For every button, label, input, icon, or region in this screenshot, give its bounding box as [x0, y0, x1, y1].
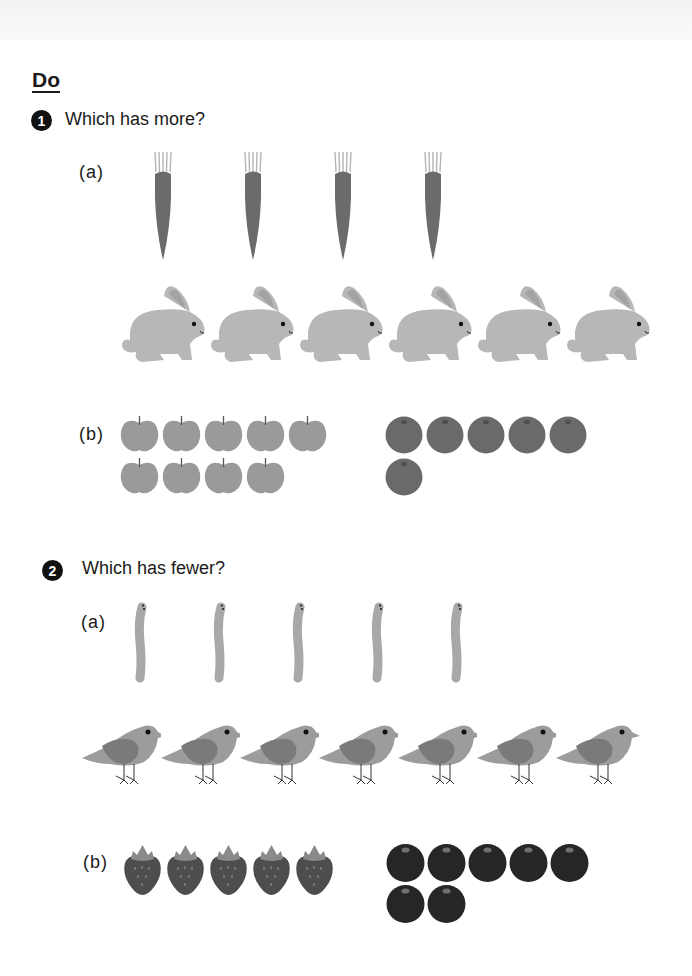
apple-icon: [288, 414, 327, 454]
question-prompt: Which has more?: [65, 109, 205, 130]
carrot-icon: [140, 150, 186, 262]
rabbit-icon: [120, 282, 209, 366]
apple-icon: [120, 414, 159, 454]
worm-icon: [211, 602, 231, 684]
question-prompt: Which has fewer?: [82, 558, 225, 579]
bird-group: [82, 718, 635, 790]
part-label: (a): [81, 612, 106, 633]
blueberry-icon: [550, 843, 589, 882]
blueberry-icon: [427, 884, 466, 923]
strawberry-icon: [123, 843, 162, 897]
orange-icon: [508, 416, 546, 454]
rabbit-icon: [565, 282, 654, 366]
part-label: (b): [79, 424, 104, 445]
page-top-band: [0, 0, 692, 40]
orange-icon: [426, 416, 464, 454]
section-title: Do: [32, 68, 60, 92]
bird-icon: [319, 718, 398, 790]
apple-icon: [246, 456, 285, 496]
strawberry-group: [123, 843, 334, 897]
orange-icon: [385, 416, 423, 454]
rabbit-icon: [209, 282, 298, 366]
orange-icon: [385, 458, 423, 496]
blueberry-icon: [468, 843, 507, 882]
rabbit-icon: [387, 282, 476, 366]
apple-group: [120, 414, 340, 496]
blueberry-icon: [427, 843, 466, 882]
apple-icon: [162, 414, 201, 454]
carrot-icon: [230, 150, 276, 262]
apple-icon: [204, 456, 243, 496]
part-label: (a): [79, 162, 104, 183]
orange-group: [385, 416, 605, 496]
orange-icon: [467, 416, 505, 454]
carrot-icon: [320, 150, 366, 262]
part-label: (b): [83, 852, 108, 873]
apple-icon: [204, 414, 243, 454]
blueberry-icon: [386, 843, 425, 882]
apple-icon: [162, 456, 201, 496]
blueberry-group: [386, 843, 606, 923]
question-number-badge: 2: [42, 560, 63, 581]
worm-icon: [132, 602, 152, 684]
apple-icon: [246, 414, 285, 454]
bird-icon: [398, 718, 477, 790]
bird-icon: [556, 718, 635, 790]
rabbit-icon: [476, 282, 565, 366]
strawberry-icon: [295, 843, 334, 897]
bird-icon: [82, 718, 161, 790]
rabbit-icon: [298, 282, 387, 366]
worm-icon: [448, 602, 468, 684]
carrot-icon: [410, 150, 456, 262]
blueberry-icon: [386, 884, 425, 923]
strawberry-icon: [166, 843, 205, 897]
strawberry-icon: [252, 843, 291, 897]
apple-icon: [120, 456, 159, 496]
worm-icon: [290, 602, 310, 684]
bird-icon: [240, 718, 319, 790]
bird-icon: [161, 718, 240, 790]
strawberry-icon: [209, 843, 248, 897]
carrot-group: [140, 150, 456, 262]
blueberry-icon: [509, 843, 548, 882]
worm-icon: [369, 602, 389, 684]
worm-group: [132, 602, 468, 684]
bird-icon: [477, 718, 556, 790]
orange-icon: [549, 416, 587, 454]
rabbit-group: [120, 282, 654, 366]
question-number-badge: 1: [31, 110, 52, 131]
